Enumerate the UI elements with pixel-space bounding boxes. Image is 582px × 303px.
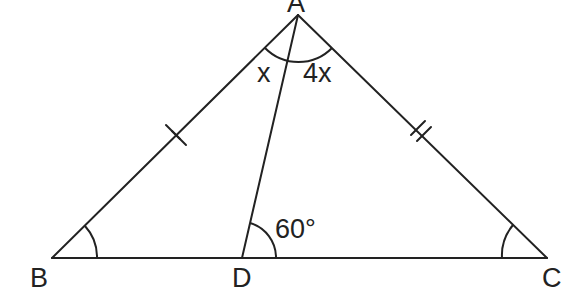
vertex-label-a: A	[287, 0, 305, 18]
vertex-label-b: B	[30, 263, 48, 293]
angle-label-x: x	[257, 58, 271, 88]
side-ab	[52, 15, 298, 258]
angle-arc-d	[250, 223, 276, 258]
angle-arc-b	[85, 226, 97, 258]
vertex-label-d: D	[232, 263, 252, 293]
angle-label-4x: 4x	[303, 58, 332, 88]
angle-arc-c	[502, 225, 513, 258]
angle-label-60: 60°	[275, 214, 316, 244]
equal-tick-marks-ac	[411, 121, 431, 141]
vertex-label-c: C	[542, 263, 562, 293]
triangle-diagram: A B C D x 4x 60°	[0, 0, 582, 303]
